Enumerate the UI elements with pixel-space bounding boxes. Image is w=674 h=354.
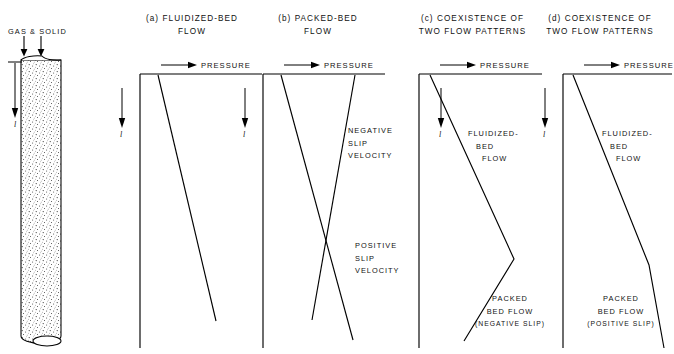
panel-b-annotation-negative: NEGATIVE SLIP VELOCITY (348, 125, 393, 163)
panel-d-annotation-packed-line3: (POSITIVE SLIP) (578, 318, 664, 331)
panel-d-annotation-fluidized: FLUIDIZED- BED FLOW (602, 128, 653, 166)
panel-b-annotation-positive-line3: VELOCITY (355, 265, 400, 278)
panel-a-length-arrowhead (119, 118, 125, 128)
panel-b-annotation-negative-line3: VELOCITY (348, 150, 393, 163)
panel-c-annotation-packed: PACKED BED FLOW (NEGATIVE SLIP) (466, 293, 554, 331)
panel-b-annotation-negative-line2: SLIP (348, 138, 393, 151)
panel-b-annotation-negative-line1: NEGATIVE (348, 125, 393, 138)
panel-c-annotation-fluidized: FLUIDIZED- BED FLOW (468, 128, 519, 166)
panel-d-length-label: l (543, 130, 545, 139)
panel-d-annotation-packed: PACKED BED FLOW (POSITIVE SLIP) (578, 293, 664, 331)
panel-b-annotation-positive-line1: POSITIVE (355, 240, 400, 253)
panel-b-curve-negative-slip (281, 75, 353, 340)
panel-c-length-arrowhead (438, 118, 444, 128)
panel-c-annotation-fluidized-line3: FLOW (468, 153, 519, 166)
panel-b-annotation-positive: POSITIVE SLIP VELOCITY (355, 240, 400, 278)
panel-a-axes (140, 74, 262, 348)
panel-c-annotation-packed-line1: PACKED (466, 293, 554, 306)
panel-c-annotation-fluidized-line2: BED (468, 141, 519, 154)
panel-a-curve-fluidized (158, 75, 216, 321)
panel-d-length-arrowhead (542, 118, 548, 128)
panel-b-pressure-label: PRESSURE (324, 61, 374, 70)
panel-d-annotation-fluidized-line1: FLUIDIZED- (602, 128, 653, 141)
panel-d-annotation-packed-line1: PACKED (578, 293, 664, 306)
panel-d-annotation-fluidized-line3: FLOW (602, 153, 653, 166)
panel-c-pressure-arrowhead (467, 62, 476, 68)
panel-d-annotation-packed-line2: BED FLOW (578, 306, 664, 319)
panel-b-curve-positive-slip (312, 75, 355, 320)
panel-c-annotation-packed-line2: BED FLOW (466, 306, 554, 319)
panel-b-length-label: l (243, 130, 245, 139)
panel-c-pressure-label: PRESSURE (480, 61, 530, 70)
panel-b-length-arrowhead (242, 118, 248, 128)
panel-c-length-label: l (439, 130, 441, 139)
panel-d-pressure-label: PRESSURE (624, 61, 674, 70)
panel-b-pressure-arrowhead (311, 62, 320, 68)
panel-a-pressure-arrowhead (188, 62, 197, 68)
panel-a-pressure-label: PRESSURE (201, 61, 251, 70)
panel-d-annotation-fluidized-line2: BED (602, 141, 653, 154)
panel-a-length-label: l (120, 130, 122, 139)
panel-b-axes (263, 74, 385, 348)
panel-b-annotation-positive-line2: SLIP (355, 253, 400, 266)
panel-c-annotation-fluidized-line1: FLUIDIZED- (468, 128, 519, 141)
panel-c-annotation-packed-line3: (NEGATIVE SLIP) (466, 318, 554, 331)
panel-d-pressure-arrowhead (611, 62, 620, 68)
